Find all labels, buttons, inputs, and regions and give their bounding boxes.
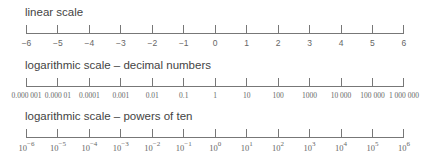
tick-mark xyxy=(372,25,373,34)
tick-label: 3 xyxy=(307,38,312,48)
tick-mark xyxy=(246,78,247,87)
tick-mark xyxy=(341,25,342,34)
tick-label: 0.000 01 xyxy=(45,91,71,100)
tick-mark xyxy=(372,129,373,138)
tick-label: 5 xyxy=(370,38,375,48)
tick-mark xyxy=(26,129,27,138)
power-base: 10 xyxy=(272,143,281,153)
tick-mark xyxy=(183,129,184,138)
power-base: 10 xyxy=(335,143,344,153)
tick-mark xyxy=(152,129,153,138)
power-exponent: −1 xyxy=(184,140,191,148)
tick-label: 103 xyxy=(304,141,316,153)
decimal-scale-title: logarithmic scale – decimal numbers xyxy=(25,59,211,71)
tick-mark xyxy=(183,25,184,34)
powers-scale-title: logarithmic scale – powers of ten xyxy=(25,110,192,122)
power-exponent: 1 xyxy=(249,140,253,148)
tick-label: 10 xyxy=(243,91,251,100)
power-base: 10 xyxy=(398,143,407,153)
tick-mark xyxy=(309,129,310,138)
power-exponent: 3 xyxy=(312,140,316,148)
power-exponent: 6 xyxy=(406,140,410,148)
tick-label: 100 000 xyxy=(360,91,384,100)
power-base: 10 xyxy=(19,143,28,153)
power-base: 10 xyxy=(113,143,122,153)
tick-label: 104 xyxy=(335,141,347,153)
power-exponent: 2 xyxy=(281,140,285,148)
tick-label: −1 xyxy=(179,38,189,48)
tick-label: 1000 xyxy=(302,91,317,100)
power-base: 10 xyxy=(176,143,185,153)
tick-mark xyxy=(309,25,310,34)
tick-mark xyxy=(120,78,121,87)
tick-label: 10−6 xyxy=(19,141,35,153)
tick-mark xyxy=(278,129,279,138)
tick-mark xyxy=(183,78,184,87)
tick-mark xyxy=(278,25,279,34)
tick-mark xyxy=(246,25,247,34)
power-base: 10 xyxy=(209,143,218,153)
tick-label: −6 xyxy=(22,38,32,48)
power-exponent: −6 xyxy=(27,140,34,148)
tick-label: −3 xyxy=(116,38,126,48)
tick-mark xyxy=(278,78,279,87)
power-base: 10 xyxy=(304,143,313,153)
tick-label: 0.01 xyxy=(146,91,159,100)
tick-mark xyxy=(120,129,121,138)
tick-label: 100 xyxy=(272,91,283,100)
tick-label: 10−1 xyxy=(176,141,192,153)
tick-label: −4 xyxy=(85,38,95,48)
tick-mark xyxy=(215,78,216,87)
power-exponent: −4 xyxy=(90,140,97,148)
tick-label: 1 000 000 xyxy=(389,91,419,100)
tick-mark xyxy=(152,25,153,34)
tick-label: 10−2 xyxy=(144,141,160,153)
tick-label: 10−3 xyxy=(113,141,129,153)
tick-label: 106 xyxy=(398,141,410,153)
linear-scale-title: linear scale xyxy=(25,6,83,18)
tick-label: 1 xyxy=(213,91,217,100)
tick-label: 10 000 xyxy=(331,91,352,100)
power-exponent: −5 xyxy=(58,140,65,148)
tick-mark xyxy=(57,25,58,34)
tick-label: 0.000 001 xyxy=(12,91,42,100)
tick-mark xyxy=(89,129,90,138)
tick-mark xyxy=(152,78,153,87)
tick-label: 0.1 xyxy=(179,91,188,100)
tick-label: 10−5 xyxy=(50,141,66,153)
tick-mark xyxy=(403,25,404,34)
tick-mark xyxy=(246,129,247,138)
tick-mark xyxy=(26,78,27,87)
tick-label: 10−4 xyxy=(81,141,97,153)
power-base: 10 xyxy=(241,143,250,153)
tick-label: 0 xyxy=(213,38,218,48)
tick-mark xyxy=(403,78,404,87)
tick-mark xyxy=(120,25,121,34)
power-exponent: 0 xyxy=(218,140,222,148)
tick-label: −2 xyxy=(147,38,157,48)
tick-mark xyxy=(215,129,216,138)
tick-label: 1 xyxy=(244,38,249,48)
tick-mark xyxy=(372,78,373,87)
tick-mark xyxy=(403,129,404,138)
tick-mark xyxy=(89,78,90,87)
tick-mark xyxy=(341,78,342,87)
tick-mark xyxy=(89,25,90,34)
tick-label: 100 xyxy=(209,141,221,153)
tick-mark xyxy=(26,25,27,34)
tick-label: 2 xyxy=(276,38,281,48)
power-base: 10 xyxy=(81,143,90,153)
tick-label: 0.001 xyxy=(112,91,129,100)
tick-label: 101 xyxy=(241,141,253,153)
tick-mark xyxy=(57,78,58,87)
tick-label: 102 xyxy=(272,141,284,153)
tick-label: 105 xyxy=(366,141,378,153)
tick-mark xyxy=(57,129,58,138)
tick-label: −5 xyxy=(53,38,63,48)
tick-label: 6 xyxy=(402,38,407,48)
power-exponent: 4 xyxy=(344,140,348,148)
tick-label: 4 xyxy=(339,38,344,48)
power-exponent: 5 xyxy=(375,140,379,148)
power-exponent: −3 xyxy=(121,140,128,148)
power-base: 10 xyxy=(50,143,59,153)
